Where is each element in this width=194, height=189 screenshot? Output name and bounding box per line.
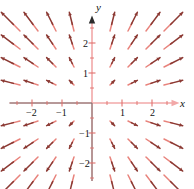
vector-field-figure: x y −2 −1 1 2 1 2 −1 −2 [0, 0, 194, 189]
ytick-label-pos1: 1 [83, 69, 88, 79]
ytick-label-pos2: 2 [83, 39, 88, 49]
ytick-label-neg1: −1 [79, 129, 90, 139]
xtick-label-pos2: 2 [150, 108, 155, 118]
x-axis-label: x [180, 98, 185, 109]
y-axis-label: y [96, 2, 101, 13]
xtick-label-neg1: −1 [56, 108, 67, 118]
ytick-label-neg2: −2 [79, 159, 90, 169]
xtick-label-pos1: 1 [120, 108, 125, 118]
vector-field-plot [0, 0, 194, 189]
xtick-label-neg2: −2 [26, 108, 37, 118]
